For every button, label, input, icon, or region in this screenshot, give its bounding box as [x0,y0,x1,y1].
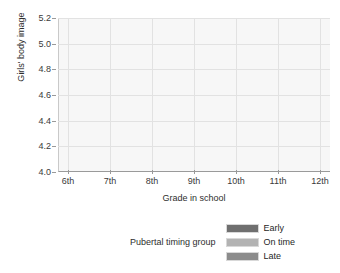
legend-swatch [226,252,259,261]
y-tick-label: 4.8 [38,64,51,74]
y-tick-mark [52,95,56,96]
legend-item: Late [226,250,296,262]
legend-swatch [226,224,259,233]
legend-entries: EarlyOn timeLate [226,222,296,262]
gridline-vertical [278,18,279,172]
y-axis-label: Girls' body image [16,0,26,117]
y-tick-label: 5.0 [38,39,51,49]
x-tick-mark [236,170,237,174]
gridline-vertical [152,18,153,172]
x-tick-label: 9th [188,176,201,186]
y-tick-mark [52,69,56,70]
chart-page: 4.04.24.44.64.85.05.2 6th7th8th9th10th11… [0,0,340,273]
gridline-vertical [236,18,237,172]
y-tick-mark [52,121,56,122]
y-tick-mark [52,172,56,173]
x-axis-ticks: 6th7th8th9th10th11th12th [58,176,330,190]
y-tick-label: 4.0 [38,167,51,177]
x-tick-label: 8th [146,176,159,186]
legend-label: Late [264,251,282,261]
chart-plot-area [58,18,330,172]
legend-title: Pubertal timing group [130,237,216,247]
y-tick-label: 5.2 [38,13,51,23]
x-tick-mark [110,170,111,174]
y-tick-mark [52,44,56,45]
y-tick-mark [52,18,56,19]
legend-item: On time [226,236,296,248]
x-tick-mark [278,170,279,174]
chart-legend: Pubertal timing group EarlyOn timeLate [130,222,335,262]
y-tick-mark [52,146,56,147]
gridline-vertical [110,18,111,172]
gridline-vertical [320,18,321,172]
x-tick-mark [194,170,195,174]
x-tick-mark [320,170,321,174]
x-tick-label: 12th [311,176,329,186]
x-tick-label: 11th [270,176,287,186]
x-tick-mark [152,170,153,174]
x-axis-label: Grade in school [58,193,330,203]
legend-label: Early [264,223,285,233]
x-tick-label: 10th [227,176,245,186]
x-tick-label: 7th [104,176,117,186]
legend-swatch [226,238,259,247]
y-tick-label: 4.4 [38,116,51,126]
legend-item: Early [226,222,296,234]
gridline-vertical [68,18,69,172]
gridline-vertical [194,18,195,172]
x-tick-label: 6th [62,176,75,186]
y-tick-label: 4.6 [38,90,51,100]
y-tick-label: 4.2 [38,141,51,151]
x-tick-mark [68,170,69,174]
legend-label: On time [264,237,296,247]
